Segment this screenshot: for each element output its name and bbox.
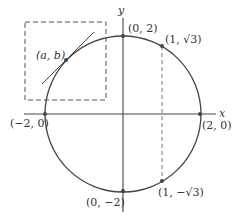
point-sqrt3 [160, 44, 164, 48]
label-ab: (a, b) [36, 49, 65, 62]
point-negsqrt3 [160, 179, 164, 183]
diagram-canvas: x y (0, 2) (1, √3) (−2, 0) (2, 0) (0, −2… [0, 0, 237, 216]
circle-diagram: x y (0, 2) (1, √3) (−2, 0) (2, 0) (0, −2… [0, 0, 237, 216]
label-bottom: (0, −2) [86, 196, 125, 209]
label-negsqrt3: (1, −√3) [158, 186, 204, 199]
point-left [43, 112, 47, 116]
y-axis-label: y [117, 4, 125, 17]
label-left: (−2, 0) [10, 117, 49, 130]
point-top [121, 34, 125, 38]
point-bottom [121, 189, 125, 193]
label-top: (0, 2) [128, 22, 158, 35]
label-sqrt3: (1, √3) [165, 33, 202, 46]
point-right [198, 112, 202, 116]
label-right: (2, 0) [202, 119, 232, 132]
